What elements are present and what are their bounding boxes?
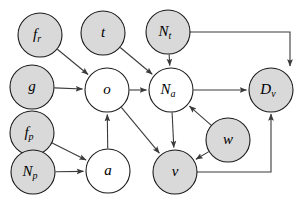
node-label-w: w [223,131,233,147]
node-label-v: v [172,163,179,179]
edge-t-to-N_a [120,47,152,74]
node-label-subscript: v [271,88,276,99]
edge-line [54,88,82,89]
node-t[interactable]: t [81,11,125,55]
node-v[interactable]: v [153,150,197,194]
node-f_p[interactable]: fp [10,111,54,155]
node-label-base: g [28,78,36,94]
edge-N_t-to-N_a [169,54,170,65]
node-o[interactable]: o [85,68,129,112]
edge-line [52,143,86,160]
node-a[interactable]: a [86,149,130,193]
node-label-subscript: t [169,30,172,41]
node-w[interactable]: w [206,118,250,162]
node-label-base: a [104,162,112,178]
node-label-a: a [104,162,112,178]
edge-f_p-to-a [52,143,86,160]
edge-line [57,49,88,74]
causal-graph-diagram: frtNtgoNaDvfpNpavw [0,0,306,199]
edge-line [121,107,159,153]
node-label-subscript: p [32,170,38,181]
edge-g-to-o [54,88,82,89]
node-layer: frtNtgoNaDvfpNpavw [10,10,293,194]
node-label-base: D [259,81,271,97]
edge-w-to-v [196,152,209,160]
node-label-subscript: a [171,88,176,99]
node-label-base: o [103,81,111,97]
edge-line [169,54,170,65]
node-label-base: w [223,131,233,147]
node-N_a[interactable]: Na [149,68,193,112]
node-N_p[interactable]: Np [11,150,55,194]
node-label-o: o [103,81,111,97]
node-label-g: g [28,78,36,94]
node-g[interactable]: g [10,65,54,109]
edge-line [190,32,290,66]
edge-line [196,152,209,160]
node-N_t[interactable]: Nt [146,10,190,54]
edge-line [120,47,152,74]
edge-line [189,106,211,125]
node-label-base: v [172,163,179,179]
edge-N_t-to-D_v [190,32,290,66]
node-f_r[interactable]: fr [18,13,62,57]
node-D_v[interactable]: Dv [249,68,293,112]
node-label-subscript: p [28,131,34,142]
node-label-subscript: r [37,33,41,44]
edge-w-to-N_a [189,106,211,125]
graph-canvas: frtNtgoNaDvfpNpavw [0,0,306,199]
edge-o-to-v [121,107,159,153]
edge-N_a-to-v [172,112,174,147]
edge-line [172,112,174,147]
edge-f_r-to-o [57,49,88,74]
